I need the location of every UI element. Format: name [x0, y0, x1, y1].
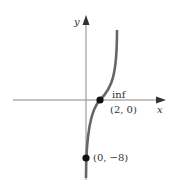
- x-axis-arrow-icon: [156, 97, 166, 104]
- y-axis-arrow-icon: [83, 15, 90, 25]
- x-axis-label: x: [157, 104, 163, 115]
- point-b-label: (0, −8): [93, 152, 128, 163]
- chart: y x inf (2, 0) (0, −8): [0, 0, 174, 186]
- point-inflection: [96, 96, 103, 103]
- point-y-intercept: [82, 154, 89, 161]
- point-a-label: (2, 0): [110, 104, 137, 115]
- inflection-label: inf: [112, 89, 127, 100]
- y-axis-label: y: [73, 16, 80, 27]
